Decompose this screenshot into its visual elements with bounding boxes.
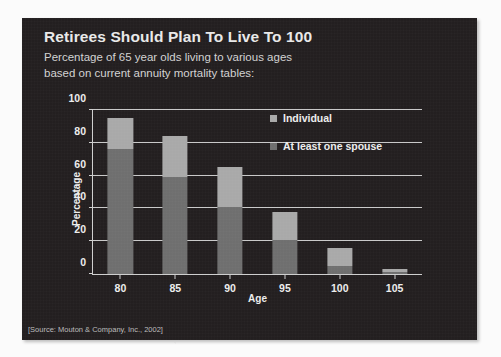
bar-segment-at-least-one-spouse xyxy=(163,136,188,177)
bar-group xyxy=(108,118,133,274)
bar-segment-at-least-one-spouse xyxy=(108,118,133,149)
x-tick-label: 85 xyxy=(169,282,181,294)
bar-group xyxy=(327,248,352,274)
bar-segment-at-least-one-spouse xyxy=(327,248,352,266)
legend-label: At least one spouse xyxy=(283,140,382,152)
page-title: Retirees Should Plan To Live To 100 xyxy=(44,28,312,46)
subtitle-line-2: based on current annuity mortality table… xyxy=(44,67,254,79)
y-tick-mark xyxy=(89,240,93,241)
bar-chart: Percentage 02040608010080859095100105Age… xyxy=(44,90,454,308)
bar-segment-individual xyxy=(108,149,133,274)
y-tick-label: 20 xyxy=(74,223,86,235)
x-tick-label: 90 xyxy=(224,282,236,294)
bar-segment-individual xyxy=(217,207,242,274)
y-tick-label: 40 xyxy=(74,190,86,202)
x-tick-label: 80 xyxy=(115,282,127,294)
gridline xyxy=(93,207,422,208)
y-tick-mark xyxy=(89,109,93,110)
bar-segment-at-least-one-spouse xyxy=(217,167,242,206)
bar-group xyxy=(163,136,188,274)
y-tick-mark xyxy=(89,273,93,274)
presentation-slide: Retirees Should Plan To Live To 100 Perc… xyxy=(22,18,477,340)
x-tick-mark xyxy=(175,274,176,279)
gridline xyxy=(93,240,422,241)
y-tick-mark xyxy=(89,142,93,143)
x-tick-label: 105 xyxy=(386,282,404,294)
legend-item: At least one spouse xyxy=(270,140,420,152)
x-tick-mark xyxy=(284,274,285,279)
legend-item: Individual xyxy=(270,112,420,124)
legend-label: Individual xyxy=(283,112,332,124)
x-tick-mark xyxy=(394,274,395,279)
chart-legend: IndividualAt least one spouse xyxy=(270,112,420,168)
x-tick-label: 95 xyxy=(279,282,291,294)
bar-group xyxy=(217,167,242,274)
y-tick-label: 80 xyxy=(74,125,86,137)
subtitle-line-1: Percentage of 65 year olds living to var… xyxy=(44,51,292,63)
y-tick-mark xyxy=(89,207,93,208)
y-tick-label: 0 xyxy=(80,256,86,268)
page-background: Retirees Should Plan To Live To 100 Perc… xyxy=(0,0,501,357)
x-axis-title: Age xyxy=(248,293,267,304)
gridline xyxy=(93,175,422,176)
legend-swatch-icon xyxy=(270,115,277,122)
y-tick-label: 60 xyxy=(74,158,86,170)
x-tick-label: 100 xyxy=(331,282,349,294)
x-tick-mark xyxy=(339,274,340,279)
gridline xyxy=(93,109,422,110)
x-tick-mark xyxy=(230,274,231,279)
y-tick-label: 100 xyxy=(68,92,86,104)
bar-group xyxy=(272,212,297,274)
bar-segment-at-least-one-spouse xyxy=(272,212,297,240)
bar-segment-individual xyxy=(272,240,297,274)
y-tick-mark xyxy=(89,175,93,176)
source-note: [Source: Mouton & Company, Inc., 2002] xyxy=(28,325,163,334)
x-tick-mark xyxy=(120,274,121,279)
bar-segment-individual xyxy=(163,177,188,274)
bar-segment-individual xyxy=(327,266,352,274)
legend-swatch-icon xyxy=(270,143,277,150)
